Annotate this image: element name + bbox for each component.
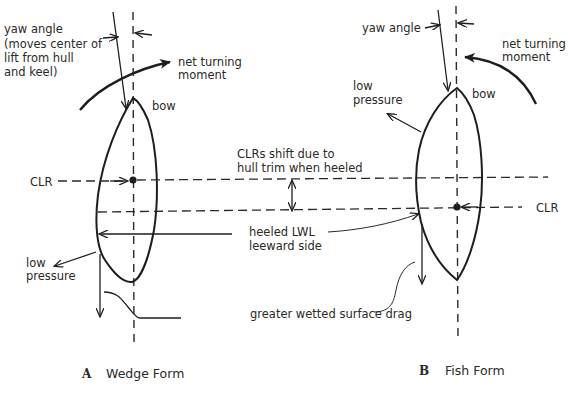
- wedge-clr-dot: [129, 176, 136, 183]
- wedge-low-pressure-line2: pressure: [26, 269, 76, 283]
- fish-yaw-tick-left-arrow: [425, 25, 439, 28]
- wedge-yaw-label-line2: (moves center of: [4, 37, 103, 51]
- upper-clr-dashed-line: [137, 177, 548, 180]
- drag-connector-curve: [374, 262, 415, 312]
- panel-b-fish-form: yaw angle net turning moment bow low pre…: [353, 6, 566, 378]
- fish-centerline: [456, 6, 458, 340]
- fish-clr-dot: [453, 203, 460, 210]
- hull-form-diagram: yaw angle (moves center of lift from hul…: [0, 0, 568, 394]
- wedge-yaw-label-line3: lift from hull: [4, 51, 74, 65]
- fish-bow-label: bow: [472, 87, 496, 101]
- fish-low-pressure-line1: low: [353, 79, 373, 93]
- wedge-low-pressure-arrow: [55, 252, 96, 266]
- fish-caption-letter: B: [419, 364, 429, 378]
- clr-shift-label-line1: CLRs shift due to: [237, 147, 334, 161]
- lwl-label-line2: leeward side: [249, 239, 322, 253]
- wedge-caption-text: Wedge Form: [106, 366, 184, 381]
- panel-a-wedge-form: yaw angle (moves center of lift from hul…: [4, 12, 242, 381]
- clr-shift-label-line2: hull trim when heeled: [237, 161, 363, 175]
- fish-hull-outline: [416, 88, 482, 280]
- lwl-connector-arrow: [328, 214, 418, 232]
- fish-yaw-tick-right-arrow: [459, 23, 474, 24]
- fish-low-pressure-arrow: [388, 114, 421, 132]
- wedge-caption-letter: A: [81, 367, 92, 381]
- fish-low-pressure-line2: pressure: [353, 93, 403, 107]
- wedge-wake-curve: [104, 292, 181, 318]
- wedge-low-pressure-line1: low: [26, 256, 46, 270]
- wedge-yaw-label: yaw angle: [4, 22, 63, 36]
- wedge-yaw-tick-right-arrow: [136, 33, 152, 35]
- wedge-clr-label: CLR: [30, 175, 52, 189]
- fish-caption-text: Fish Form: [445, 363, 505, 378]
- fish-turning-label-line2: moment: [502, 50, 551, 64]
- wedge-bow-label: bow: [152, 99, 176, 113]
- wedge-turning-label-line2: moment: [178, 68, 227, 82]
- fish-yaw-heading-arrow: [438, 10, 448, 90]
- wedge-yaw-heading-arrow: [113, 12, 126, 108]
- fish-yaw-label: yaw angle: [362, 21, 421, 35]
- lwl-label-line1: heeled LWL: [249, 225, 315, 239]
- wedge-hull-outline: [96, 98, 157, 282]
- wedge-turning-label-line1: net turning: [178, 55, 242, 69]
- fish-clr-label: CLR: [536, 201, 558, 215]
- wedge-yaw-label-line4: and keel): [4, 65, 57, 79]
- fish-turning-label-line1: net turning: [502, 37, 566, 51]
- wedge-yaw-tick-left-arrow: [103, 37, 117, 38]
- drag-label: greater wetted surface drag: [250, 307, 412, 321]
